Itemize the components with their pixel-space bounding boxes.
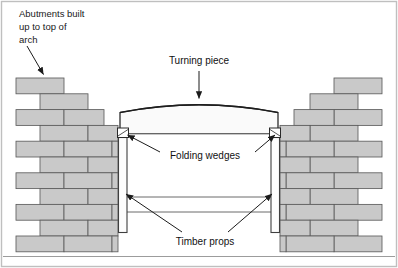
brick [310,220,358,236]
brick [310,189,358,205]
diagram-canvas: Abutments built up to top of arch Turnin… [0,0,398,268]
brick [40,94,88,110]
brick [310,157,358,173]
brick [310,94,358,110]
brick [310,125,358,141]
brick [112,236,118,252]
label-abutments-line-1: Abutments built [19,8,85,19]
brick [280,204,286,220]
brick [112,204,118,220]
timber-prop-left [119,138,128,233]
brick [64,236,112,252]
brick [16,78,64,94]
brick [280,189,310,205]
brick [280,173,286,189]
brick [40,189,88,205]
turning-piece [120,105,278,134]
brick [88,189,118,205]
brick [64,110,104,126]
brick [334,173,382,189]
brick [88,220,118,236]
brick [40,220,88,236]
label-abutments-line-3: arch [19,34,37,45]
brick [280,220,310,236]
label-abutments-line-2: up to top of [19,21,67,32]
brick [334,236,382,252]
brick [280,157,310,173]
brick [16,173,64,189]
brick [64,141,112,157]
brick [88,125,118,141]
brick [88,157,118,173]
brick [16,141,64,157]
brick [16,204,64,220]
brick [334,204,382,220]
brick [334,141,382,157]
brick [280,236,286,252]
brick [64,204,112,220]
brick [40,157,88,173]
brick [280,125,310,141]
brick [286,204,334,220]
label-timber-props: Timber props [176,236,235,247]
brick [64,173,112,189]
brick [112,173,118,189]
arch-construction-diagram: Abutments built up to top of arch Turnin… [0,0,398,268]
brick [334,78,382,94]
timber-prop-right [271,138,280,233]
label-folding-wedges: Folding wedges [170,150,240,161]
brick [40,125,88,141]
brick [334,110,382,126]
label-turning-piece: Turning piece [169,55,230,66]
brick [280,141,286,157]
brick [294,110,334,126]
brick [16,110,64,126]
brick [286,173,334,189]
brick [286,141,334,157]
brick [112,141,118,157]
brick [16,236,64,252]
brick [286,236,334,252]
